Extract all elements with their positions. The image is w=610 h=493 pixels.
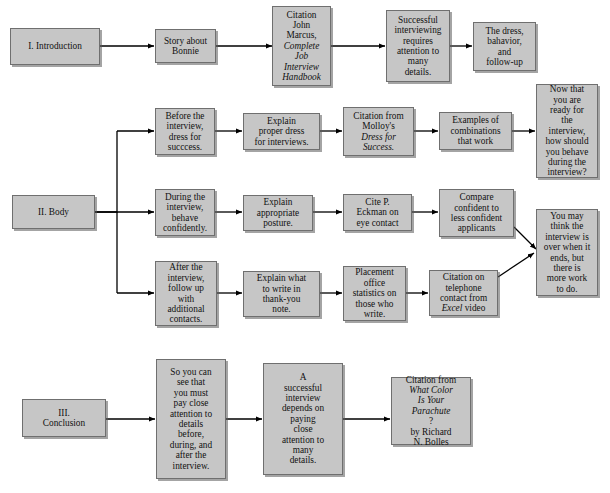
node-label: Placement office statistics on those who… (347, 267, 402, 319)
node-label-plain: Citation from (395, 375, 467, 385)
edge-telephone-to-transition2 (498, 253, 534, 277)
node-label-title: What Color Is Your Parachute (395, 385, 467, 416)
node-label: Successful interviewing requires attenti… (390, 15, 446, 77)
node-label-plain: Citation John Marcus, (276, 10, 327, 41)
edge-body-trunk-up (95, 131, 117, 212)
node-examples-combinations[interactable]: Examples of combinations that work (439, 112, 512, 150)
node-label: You may think the interview is over when… (540, 211, 594, 294)
node-label-suffix: video (462, 303, 485, 313)
node-successful-interviewing[interactable]: Successful interviewing requires attenti… (386, 10, 450, 82)
node-during-interview-behave[interactable]: During the interview, behave confidently… (155, 189, 215, 236)
node-explain-thank-you-note[interactable]: Explain what to write in thank-you note. (243, 271, 320, 317)
node-label-author: ? by Richard N. Bolles (395, 416, 467, 447)
node-label: The dress, bahavior, and follow-up (477, 26, 532, 68)
node-conclusion[interactable]: III. Conclusion (22, 399, 106, 437)
node-label-title: Excel (442, 303, 463, 313)
node-placement-office-statistics[interactable]: Placement office statistics on those who… (343, 266, 406, 321)
node-label: Compare confident to less confident appl… (443, 192, 510, 234)
node-label: Before the interview, dress for succcess… (159, 111, 211, 153)
node-label: Explain what to write in thank-you note. (247, 273, 316, 315)
node-citation-telephone-excel-video[interactable]: Citation on telephone contact from Excel… (429, 270, 498, 316)
node-transition-ready-for-interview[interactable]: Now that you are ready for the interview… (536, 84, 598, 178)
node-label: Explain appropriate posture. (247, 197, 309, 228)
node-body[interactable]: II. Body (12, 195, 95, 229)
node-after-interview-follow-up[interactable]: After the interview, follow up with addi… (155, 261, 217, 326)
node-citation-what-color-parachute[interactable]: Citation from What Color Is Your Parachu… (391, 377, 471, 445)
node-explain-appropriate-posture[interactable]: Explain appropriate posture. (243, 195, 313, 231)
node-dress-behavior-followup[interactable]: The dress, bahavior, and follow-up (473, 22, 536, 71)
node-label: Explain proper dress for interviews. (247, 116, 316, 147)
node-label: I. Introduction (14, 41, 96, 51)
node-label-title: Complete Job Interview Handbook (276, 41, 327, 83)
node-explain-proper-dress[interactable]: Explain proper dress for interviews. (243, 113, 320, 150)
node-citation-john-marcus[interactable]: Citation John Marcus, Complete Job Inter… (272, 6, 331, 86)
node-label: III. Conclusion (26, 408, 102, 429)
node-label: II. Body (16, 207, 91, 217)
edge-compare-to-transition2 (514, 227, 536, 249)
node-label: Story about Bonnie (159, 36, 212, 57)
node-label: During the interview, behave confidently… (159, 192, 211, 234)
node-label: After the interview, follow up with addi… (159, 262, 213, 324)
node-story-about-bonnie[interactable]: Story about Bonnie (155, 29, 216, 63)
node-label: Examples of combinations that work (443, 115, 508, 146)
node-successful-interview-depends[interactable]: A successful interview depends on paying… (263, 363, 343, 475)
node-label: A successful interview depends on paying… (267, 372, 339, 466)
node-label: So you can see that you must pay close a… (160, 367, 222, 471)
node-label: Now that you are ready for the interview… (540, 84, 594, 178)
node-cite-eckman-eye-contact[interactable]: Cite P. Eckman on eye contact (343, 194, 412, 231)
node-compare-confident-applicants[interactable]: Compare confident to less confident appl… (439, 189, 514, 237)
node-transition-interview-over[interactable]: You may think the interview is over when… (536, 209, 598, 296)
node-introduction[interactable]: I. Introduction (10, 28, 100, 65)
node-citation-molloy-dress-for-success[interactable]: Citation from Molloy's Dress for Success… (343, 107, 414, 156)
node-label-title: Dress for Success. (347, 132, 410, 153)
node-label-mixed: Excel video (433, 303, 494, 313)
node-before-interview-dress[interactable]: Before the interview, dress for succcess… (155, 108, 215, 155)
flowchart-canvas: I. Introduction Story about Bonnie Citat… (0, 0, 610, 493)
node-label: Cite P. Eckman on eye contact (347, 197, 408, 228)
node-label-plain: Citation on telephone contact from (433, 272, 494, 303)
node-label-plain: Citation from Molloy's (347, 111, 410, 132)
node-so-you-can-see[interactable]: So you can see that you must pay close a… (156, 359, 226, 479)
